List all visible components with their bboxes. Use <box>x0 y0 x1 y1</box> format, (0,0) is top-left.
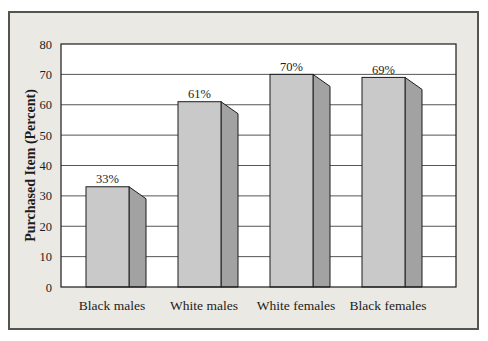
bar-side-face <box>405 77 422 287</box>
category-label: White males <box>170 298 238 313</box>
category-label: White females <box>257 298 335 313</box>
y-tick-label: 0 <box>46 281 52 295</box>
figure-canvas: 0102030405060708033%Black males61%White … <box>0 0 488 341</box>
bar-side-face <box>129 187 146 287</box>
bar <box>362 77 405 287</box>
bar-side-face <box>313 74 330 287</box>
bar-value-label: 33% <box>96 172 119 186</box>
y-tick-label: 30 <box>40 189 53 203</box>
bar-value-label: 69% <box>372 63 395 77</box>
bar <box>178 102 221 287</box>
bar <box>86 187 129 287</box>
y-tick-label: 40 <box>40 159 53 173</box>
y-tick-label: 80 <box>40 38 53 52</box>
y-tick-label: 20 <box>40 220 53 234</box>
category-label: Black males <box>79 298 145 313</box>
y-tick-label: 70 <box>40 68 53 82</box>
bar-value-label: 61% <box>188 87 211 101</box>
bar-chart: 0102030405060708033%Black males61%White … <box>0 0 488 341</box>
category-label: Black females <box>350 298 427 313</box>
bar <box>270 74 313 287</box>
y-tick-label: 60 <box>40 98 53 112</box>
y-axis-title: Purchased Item (Percent) <box>23 89 39 242</box>
bar-value-label: 70% <box>280 60 303 74</box>
y-tick-label: 10 <box>40 250 53 264</box>
y-tick-label: 50 <box>40 129 53 143</box>
bar-side-face <box>221 102 238 287</box>
